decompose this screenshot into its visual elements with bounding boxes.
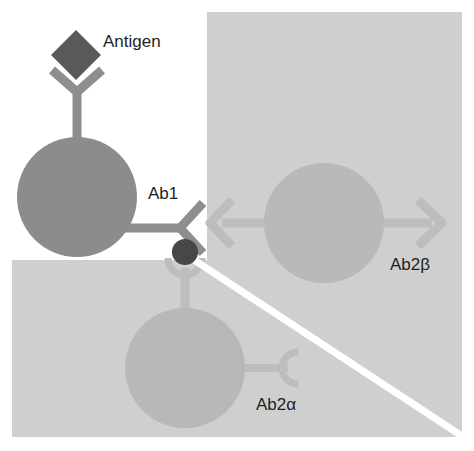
label-ab2alpha: Ab2α [256,395,296,415]
label-antigen: Antigen [103,32,161,52]
ab2alpha-cell [125,308,245,428]
ab2beta-cell [264,163,384,283]
diagram-canvas [0,0,474,451]
label-ab2beta: Ab2β [390,255,430,275]
label-ab1: Ab1 [148,184,178,204]
idiotope-body [172,239,198,265]
ab1-group [17,70,203,257]
ab1-cell [17,137,137,257]
